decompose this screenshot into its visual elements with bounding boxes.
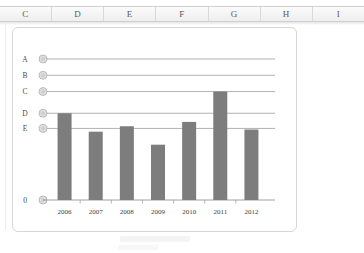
- column-header-cell[interactable]: C: [0, 7, 52, 21]
- bar[interactable]: [182, 122, 196, 200]
- bar[interactable]: [89, 132, 103, 200]
- column-header-cell[interactable]: H: [261, 7, 313, 21]
- y-axis-tick-label: E: [23, 124, 28, 133]
- column-header-cell[interactable]: I: [313, 7, 364, 21]
- y-axis-marker-center: [41, 57, 45, 61]
- x-axis-category-label: 2006: [58, 208, 73, 216]
- chart-svg: ABCDE02006200720082009201020112012: [13, 28, 296, 231]
- y-axis-tick-label: A: [22, 55, 28, 64]
- x-axis-category-label: 2009: [151, 208, 166, 216]
- page-artifact-secondary: [118, 245, 158, 250]
- x-axis-category-label: 2008: [120, 208, 135, 216]
- bar[interactable]: [151, 145, 165, 200]
- x-axis-category-label: 2012: [244, 208, 259, 216]
- chart-panel[interactable]: ABCDE02006200720082009201020112012: [12, 27, 297, 232]
- y-axis-tick-label: D: [22, 109, 28, 118]
- x-axis-category-label: 2011: [213, 208, 227, 216]
- y-axis-marker-center: [41, 126, 45, 130]
- y-axis-marker-center: [41, 89, 45, 93]
- header-shadow: [0, 22, 364, 25]
- y-axis-marker-center: [41, 111, 45, 115]
- column-header-cell[interactable]: D: [52, 7, 104, 21]
- y-axis-marker-center: [41, 73, 45, 77]
- y-axis-tick-label: C: [22, 87, 27, 96]
- column-header-cell[interactable]: G: [209, 7, 261, 21]
- x-axis-category-label: 2010: [182, 208, 197, 216]
- bar-chart-plot: ABCDE02006200720082009201020112012: [13, 28, 296, 231]
- bar[interactable]: [213, 92, 227, 200]
- sheet-left-edge: [5, 24, 6, 230]
- column-header-cell[interactable]: F: [156, 7, 208, 21]
- y-axis-tick-label: 0: [23, 196, 27, 205]
- spreadsheet-column-header[interactable]: C D E F G H I: [0, 6, 364, 22]
- column-header-cell[interactable]: E: [104, 7, 156, 21]
- page-artifact: [120, 236, 190, 242]
- x-axis-category-label: 2007: [89, 208, 104, 216]
- bar[interactable]: [58, 113, 72, 200]
- y-axis-tick-label: B: [22, 71, 27, 80]
- bar[interactable]: [120, 126, 134, 200]
- bar[interactable]: [244, 130, 258, 200]
